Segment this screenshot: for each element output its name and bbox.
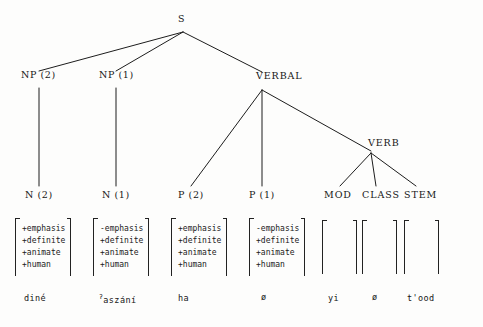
node-p2: P (2) <box>178 190 204 200</box>
node-s: S <box>178 14 185 24</box>
word-aszani: ʔaszání <box>99 293 136 305</box>
feature-item: +human <box>256 259 299 271</box>
word-text: diné <box>24 293 46 303</box>
feature-list: -emphasis +definite +animate +human <box>98 218 144 276</box>
word-null-p1: ø <box>261 292 267 302</box>
bracket-left-icon <box>322 220 327 274</box>
feature-matrix-class <box>362 220 397 274</box>
bracket-right-icon <box>144 218 149 276</box>
bracket-left-icon <box>171 218 176 276</box>
bracket-left-icon <box>93 218 98 276</box>
feature-item: -emphasis <box>100 223 143 235</box>
feature-item: +human <box>22 259 65 271</box>
feature-list: +emphasis +definite +animate +human <box>176 218 222 276</box>
feature-item: +definite <box>100 235 143 247</box>
feature-item: +emphasis <box>22 223 65 235</box>
node-stem: STEM <box>404 190 437 200</box>
feature-item: +definite <box>178 235 221 247</box>
feature-item: +animate <box>178 247 221 259</box>
feature-item: +animate <box>256 247 299 259</box>
word-text: aszání <box>103 295 136 305</box>
word-null-class: ø <box>372 292 378 302</box>
bracket-right-icon <box>66 218 71 276</box>
bracket-left-icon <box>249 218 254 276</box>
word-text: ø <box>372 292 378 302</box>
branch-verb-mod <box>340 153 371 186</box>
node-verb: VERB <box>368 138 400 148</box>
feature-item: +animate <box>100 247 143 259</box>
node-n1: N (1) <box>102 190 130 200</box>
feature-item: +definite <box>22 235 65 247</box>
feature-matrix-mod <box>322 220 357 274</box>
word-text: t'ood <box>407 293 435 303</box>
feature-item: +human <box>100 259 143 271</box>
node-p1: P (1) <box>249 190 275 200</box>
feature-item: +emphasis <box>178 223 221 235</box>
feature-list: -emphasis +definite +animate +human <box>254 218 300 276</box>
branch-s-np1 <box>116 32 183 71</box>
bracket-right-icon <box>392 220 397 274</box>
feature-matrix-n1: -emphasis +definite +animate +human <box>93 218 149 276</box>
node-np2: NP (2) <box>21 70 56 80</box>
branch-verbal-verb <box>262 90 371 151</box>
branch-verbal-p2 <box>191 90 262 186</box>
bracket-right-icon <box>434 220 439 274</box>
node-mod: MOD <box>324 190 352 200</box>
branch-verb-stem <box>371 153 416 186</box>
bracket-left-icon <box>404 220 409 274</box>
word-dine: diné <box>24 293 46 303</box>
feature-list-empty <box>367 220 392 278</box>
feature-item: +animate <box>22 247 65 259</box>
feature-list: +emphasis +definite +animate +human <box>20 218 66 276</box>
word-text: ø <box>261 292 267 302</box>
bracket-left-icon <box>15 218 20 276</box>
feature-list-empty <box>327 220 352 278</box>
word-ha: ha <box>178 293 189 303</box>
node-n2: N (2) <box>25 190 53 200</box>
bracket-left-icon <box>362 220 367 274</box>
node-np1: NP (1) <box>99 70 134 80</box>
tree-diagram: S NP (2) NP (1) VERBAL VERB N (2) N (1) … <box>0 0 483 327</box>
branch-s-np2 <box>39 32 183 71</box>
branch-verb-class <box>371 153 376 186</box>
node-class: CLASS <box>362 190 400 200</box>
feature-list-empty <box>409 220 434 278</box>
feature-matrix-p2: +emphasis +definite +animate +human <box>171 218 227 276</box>
feature-item: -emphasis <box>256 223 299 235</box>
bracket-right-icon <box>222 218 227 276</box>
branch-s-verbal <box>183 32 262 72</box>
feature-item: +definite <box>256 235 299 247</box>
feature-matrix-p1: -emphasis +definite +animate +human <box>249 218 305 276</box>
word-text: ha <box>178 293 189 303</box>
word-text: yi <box>328 293 339 303</box>
feature-item: +human <box>178 259 221 271</box>
bracket-right-icon <box>352 220 357 274</box>
word-tood: t'ood <box>407 293 435 303</box>
node-verbal: VERBAL <box>256 71 303 81</box>
feature-matrix-n2: +emphasis +definite +animate +human <box>15 218 71 276</box>
word-yi: yi <box>328 293 339 303</box>
feature-matrix-stem <box>404 220 439 274</box>
bracket-right-icon <box>300 218 305 276</box>
